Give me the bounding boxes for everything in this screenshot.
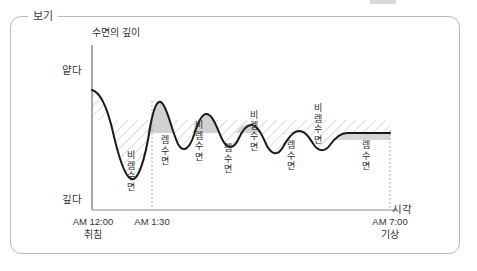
annotation-non-rem-3: 비렘수면 xyxy=(248,110,260,152)
annotation-rem-3: 렘수면 xyxy=(285,140,297,172)
y-axis-tick-shallow: 얕다 xyxy=(62,64,82,76)
annotation-rem-2: 렘수면 xyxy=(222,143,234,175)
x-tick-am-1-30: AM 1:30 xyxy=(121,216,183,227)
x-tick-bedtime-note: 취침 xyxy=(58,229,128,240)
annotation-non-rem-1: 비렘수면 xyxy=(125,150,137,192)
annotation-rem-4: 렘수면 xyxy=(360,140,372,172)
frame-legend-label: 보기 xyxy=(28,9,58,23)
x-tick-bedtime-time: AM 12:00 xyxy=(73,216,114,227)
annotation-non-rem-2: 비렘수면 xyxy=(193,120,205,162)
annotation-non-rem-4: 비렘수면 xyxy=(312,103,324,145)
top-artifact-bar xyxy=(370,0,396,4)
x-tick-bedtime: AM 12:00 취침 xyxy=(58,216,128,240)
x-tick-am-1-30-time: AM 1:30 xyxy=(134,216,169,227)
annotation-rem-1: 렘수면 xyxy=(159,135,171,167)
x-tick-wakeup-note: 기상 xyxy=(355,229,425,240)
x-axis-title: 시각 xyxy=(392,203,412,215)
screenshot-root: 보기 xyxy=(0,0,477,271)
y-axis-title: 수면의 깊이 xyxy=(84,27,148,39)
x-tick-wakeup-time: AM 7:00 xyxy=(372,216,407,227)
y-axis-tick-deep: 깊다 xyxy=(62,193,82,205)
x-tick-wakeup: AM 7:00 기상 xyxy=(355,216,425,240)
